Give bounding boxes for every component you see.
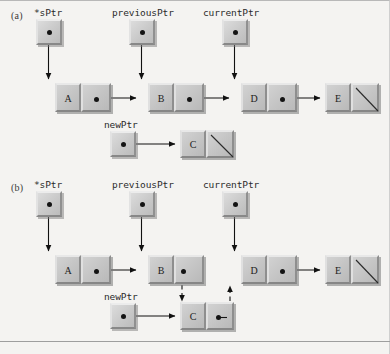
pointer-box-b-newptr — [110, 303, 136, 329]
node-b-c-pointer-cell — [206, 302, 234, 330]
pointer-dot — [94, 269, 99, 274]
pointer-label-newptr: newPtr — [104, 119, 138, 130]
pointer-dot — [280, 269, 285, 274]
node-b-value: B — [150, 92, 172, 103]
pointer-label-previousptr: previousPtr — [112, 7, 174, 18]
pointer-box-newptr — [110, 131, 136, 157]
node-d-value: D — [243, 264, 265, 275]
node-b-b-pointer-cell — [174, 255, 204, 284]
pointer-box-b-previousptr — [129, 191, 155, 217]
node-b-data-cell: B — [148, 83, 174, 112]
node-c-value: C — [182, 311, 204, 322]
node-b-a-pointer-cell — [81, 255, 111, 284]
node-a-pointer-cell — [81, 83, 111, 112]
pointer-dot — [233, 30, 238, 35]
node-b-pointer-cell — [174, 83, 204, 112]
pointer-dot — [140, 30, 145, 35]
null-pointer-slash-icon — [353, 85, 381, 114]
bottom-divider — [0, 341, 390, 342]
pointer-dot — [121, 314, 126, 319]
pointer-dot — [94, 97, 99, 102]
node-a-data-cell: A — [55, 83, 81, 112]
node-b-e-null-pointer-cell — [351, 255, 379, 284]
pointer-dot — [233, 202, 238, 207]
pointer-box-currentptr — [222, 19, 248, 45]
pointer-label-b-sptr: *sPtr — [34, 179, 62, 190]
part-label-b: (b) — [11, 182, 23, 193]
node-e-value: E — [327, 264, 349, 275]
node-c-null-pointer-cell — [206, 130, 234, 158]
node-b-d-data-cell: D — [241, 255, 267, 284]
pointer-stub-line — [208, 304, 236, 332]
pointer-dot — [140, 202, 145, 207]
pointer-dot — [187, 97, 192, 102]
node-c-data-cell: C — [180, 130, 206, 158]
node-b-b-data-cell: B — [148, 255, 174, 284]
node-e-value: E — [327, 92, 349, 103]
pointer-box-b-sptr — [36, 191, 62, 217]
pointer-dot — [121, 142, 126, 147]
pointer-label-b-currentptr: currentPtr — [203, 179, 259, 190]
node-c-value: C — [182, 139, 204, 150]
pointer-label-sptr: *sPtr — [34, 7, 62, 18]
pointer-label-b-previousptr: previousPtr — [112, 179, 174, 190]
linked-list-figure: (a) *sPtr previousPtr currentPtr A B D E — [0, 0, 390, 354]
node-d-data-cell: D — [241, 83, 267, 112]
pointer-dot — [280, 97, 285, 102]
node-d-pointer-cell — [267, 83, 297, 112]
node-e-data-cell: E — [325, 83, 351, 112]
pointer-dot — [181, 269, 186, 274]
node-a-value: A — [57, 92, 79, 103]
pointer-box-previousptr — [129, 19, 155, 45]
pointer-label-b-newptr: newPtr — [104, 291, 138, 302]
pointer-box-b-currentptr — [222, 191, 248, 217]
node-b-d-pointer-cell — [267, 255, 297, 284]
null-pointer-slash-icon — [353, 257, 381, 286]
pointer-dot — [47, 202, 52, 207]
node-b-c-data-cell: C — [180, 302, 206, 330]
node-b-e-data-cell: E — [325, 255, 351, 284]
node-d-value: D — [243, 92, 265, 103]
pointer-label-currentptr: currentPtr — [203, 7, 259, 18]
node-b-a-data-cell: A — [55, 255, 81, 284]
node-a-value: A — [57, 264, 79, 275]
pointer-box-sptr — [36, 19, 62, 45]
node-e-null-pointer-cell — [351, 83, 379, 112]
pointer-dot — [47, 30, 52, 35]
node-b-value: B — [150, 264, 172, 275]
part-label-a: (a) — [11, 10, 23, 21]
null-pointer-slash-icon — [208, 132, 236, 160]
